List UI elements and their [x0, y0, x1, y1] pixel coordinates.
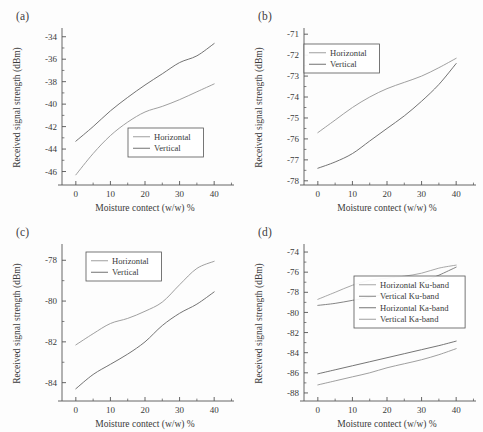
x-tick-label-3: 30 — [175, 405, 185, 415]
x-tick-label-2: 20 — [141, 189, 151, 199]
y-tick-label-3: -80 — [287, 308, 299, 318]
x-axis-label: Moisture contect (w/w) % — [95, 203, 195, 214]
y-tick-label-1: -80 — [45, 296, 57, 306]
y-tick-label-7: -78 — [287, 176, 299, 186]
y-tick-label-1: -76 — [287, 267, 299, 277]
x-tick-label-1: 10 — [106, 405, 116, 415]
y-tick-label-0: -34 — [45, 32, 57, 42]
x-tick-label-2: 20 — [383, 189, 393, 199]
plot-area-d: -74-76-78-80-82-84-86-88010203040Moistur… — [254, 244, 476, 430]
y-tick-label-2: -73 — [287, 71, 299, 81]
y-tick-label-6: -86 — [287, 368, 299, 378]
x-tick-label-0: 0 — [316, 189, 321, 199]
legend-label-1: Vertical — [112, 267, 139, 277]
x-tick-label-0: 0 — [74, 405, 79, 415]
legend-label-0: Horizontal — [112, 256, 149, 266]
y-tick-label-0: -71 — [287, 29, 299, 39]
y-tick-label-7: -88 — [287, 388, 299, 398]
chart-b: -71-72-73-74-75-76-77-78010203040Moistur… — [242, 0, 483, 216]
y-tick-label-2: -82 — [45, 337, 57, 347]
y-tick-label-5: -76 — [287, 134, 299, 144]
x-axis-label: Moisture contect (w/w) % — [337, 419, 437, 430]
y-tick-label-6: -46 — [45, 167, 57, 177]
y-axis-label: Received signal strength (dBm) — [254, 263, 265, 384]
chart-c: -78-80-82-84010203040Moisture contect (w… — [0, 216, 241, 432]
series-line-3 — [318, 349, 456, 385]
figure-container: (a) -34-36-38-40-42-44-46010203040Moistu… — [0, 0, 483, 432]
y-tick-label-0: -74 — [287, 247, 299, 257]
legend-label-0: Horizontal — [154, 132, 191, 142]
legend-label-1: Vertical — [330, 59, 357, 69]
y-tick-label-5: -84 — [287, 348, 299, 358]
y-tick-label-4: -75 — [287, 113, 299, 123]
legend-label-0: Horizontal Ku-band — [380, 280, 450, 290]
x-axis-label: Moisture contect (w/w) % — [337, 203, 437, 214]
x-tick-label-2: 20 — [383, 405, 393, 415]
legend-label-0: Horizontal — [330, 48, 367, 58]
x-tick-label-3: 30 — [417, 189, 427, 199]
chart-a: -34-36-38-40-42-44-46010203040Moisture c… — [0, 0, 241, 216]
x-tick-label-4: 40 — [210, 405, 220, 415]
y-tick-label-0: -78 — [45, 255, 57, 265]
legend-label-1: Vertical — [154, 143, 181, 153]
series-line-1 — [318, 64, 456, 169]
x-tick-label-1: 10 — [348, 405, 358, 415]
y-tick-label-5: -44 — [45, 144, 57, 154]
panel-c: (c) -78-80-82-84010203040Moisture contec… — [0, 216, 241, 432]
x-tick-label-4: 40 — [452, 189, 462, 199]
plot-area-b: -71-72-73-74-75-76-77-78010203040Moistur… — [254, 28, 476, 214]
legend-b: HorizontalVertical — [304, 44, 380, 73]
plot-area-a: -34-36-38-40-42-44-46010203040Moisture c… — [12, 28, 234, 214]
plot-area-c: -78-80-82-84010203040Moisture contect (w… — [12, 244, 234, 430]
y-tick-label-6: -77 — [287, 155, 299, 165]
x-tick-label-2: 20 — [141, 405, 151, 415]
y-tick-label-4: -42 — [45, 122, 57, 132]
x-tick-label-3: 30 — [417, 405, 427, 415]
x-tick-label-0: 0 — [316, 405, 321, 415]
x-tick-label-0: 0 — [74, 189, 79, 199]
y-tick-label-1: -36 — [45, 54, 57, 64]
y-tick-label-4: -82 — [287, 328, 299, 338]
y-tick-label-2: -38 — [45, 77, 57, 87]
panel-a: (a) -34-36-38-40-42-44-46010203040Moistu… — [0, 0, 241, 216]
series-line-1 — [76, 292, 214, 389]
legend-d: Horizontal Ku-bandVertical Ku-bandHorizo… — [354, 276, 465, 328]
x-tick-label-4: 40 — [210, 189, 220, 199]
y-tick-label-1: -72 — [287, 50, 299, 60]
x-tick-label-3: 30 — [175, 189, 185, 199]
x-axis-label: Moisture contect (w/w) % — [95, 419, 195, 430]
x-tick-label-1: 10 — [106, 189, 116, 199]
x-tick-label-1: 10 — [348, 189, 358, 199]
series-line-1 — [76, 43, 214, 141]
y-tick-label-2: -78 — [287, 287, 299, 297]
legend-label-1: Vertical Ku-band — [380, 291, 440, 301]
y-tick-label-3: -74 — [287, 92, 299, 102]
y-tick-label-3: -84 — [45, 378, 57, 388]
y-axis-label: Received signal strength (dBm) — [12, 263, 23, 384]
y-tick-label-3: -40 — [45, 99, 57, 109]
y-axis-label: Received signal strength (dBm) — [254, 47, 265, 168]
legend-label-2: Horizontal Ka-band — [380, 303, 449, 313]
series-line-2 — [318, 341, 456, 374]
y-axis-label: Received signal strength (dBm) — [12, 47, 23, 168]
legend-c: HorizontalVertical — [86, 252, 162, 281]
panel-b: (b) -71-72-73-74-75-76-77-78010203040Moi… — [242, 0, 483, 216]
x-tick-label-4: 40 — [452, 405, 462, 415]
panel-d: (d) -74-76-78-80-82-84-86-88010203040Moi… — [242, 216, 483, 432]
legend-label-3: Vertical Ka-band — [380, 314, 439, 324]
legend-a: HorizontalVertical — [128, 128, 204, 157]
chart-d: -74-76-78-80-82-84-86-88010203040Moistur… — [242, 216, 483, 432]
